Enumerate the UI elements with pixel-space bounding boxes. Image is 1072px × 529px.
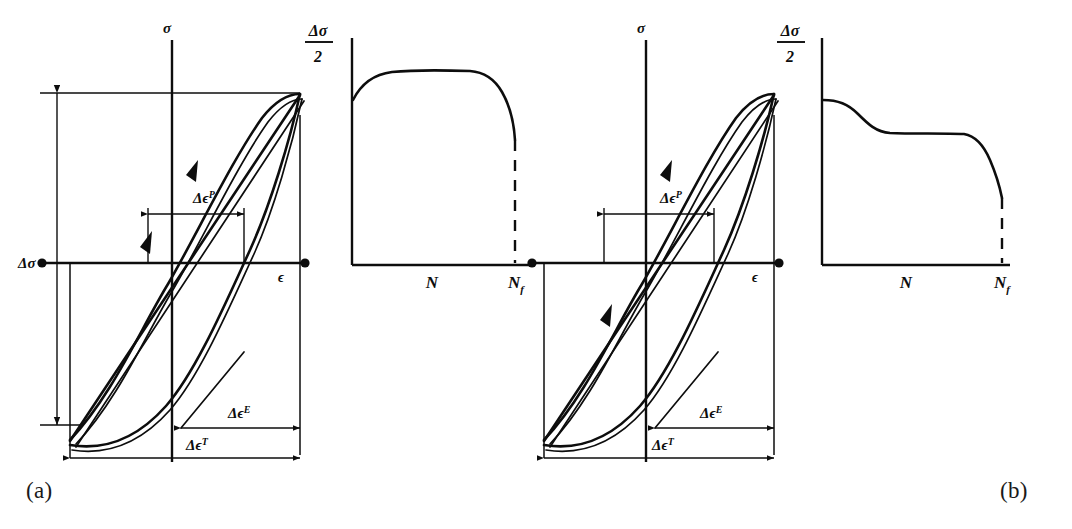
response-y-numerator-a: Δσ [308, 22, 328, 39]
response-y-denominator-a: 2 [313, 48, 322, 65]
response-y-denominator-b: 2 [785, 48, 794, 65]
epsilon-axis-right-dot-b [774, 258, 783, 267]
loop-chord-inner-a [76, 101, 304, 447]
figure-canvas: Δσ [0, 0, 1072, 529]
response-curve-a [353, 70, 515, 140]
loop-lower-branch-inner-b [546, 99, 776, 451]
hysteresis-chart-b: ΔϵP ΔϵE ΔϵT σ ϵ [527, 20, 783, 462]
loop-upper-branch-inner-b [550, 99, 776, 444]
sigma-axis-label-a: σ [163, 20, 172, 36]
response-x-label-b: N [899, 273, 913, 292]
epsilon-axis-label-b: ϵ [752, 270, 759, 285]
delta-sigma-label-a: Δσ [17, 255, 36, 271]
response-chart-a: Δσ 2 N Nf [305, 22, 530, 295]
response-failure-label-a: Nf [507, 273, 525, 295]
response-y-numerator-b: Δσ [780, 22, 800, 39]
panel-a: Δσ [17, 20, 530, 462]
response-x-label-a: N [425, 273, 439, 292]
loop-direction-arrow-lower-b [600, 304, 612, 327]
sigma-axis-label-b: σ [637, 20, 646, 36]
loop-direction-arrow-upper-a [186, 160, 198, 182]
hysteresis-chart-a: Δσ [17, 20, 310, 462]
response-curve-b [823, 100, 1002, 198]
loop-direction-arrow-upper-b [660, 160, 672, 182]
delta-eps-p-label-b: ΔϵP [659, 189, 683, 206]
epsilon-axis-left-dot-b [527, 258, 536, 267]
epsilon-axis-left-dot-a [37, 258, 46, 267]
response-y-axis-label-b: Δσ 2 [777, 22, 805, 65]
epsilon-axis-right-dot-a [300, 258, 309, 267]
panel-b: ΔϵP ΔϵE ΔϵT σ ϵ Δσ [527, 20, 1011, 462]
loop-direction-arrow-lower-a [140, 231, 152, 254]
response-failure-label-b: Nf [993, 273, 1011, 295]
response-y-axis-label-a: Δσ 2 [305, 22, 333, 65]
figure-root: Δσ [0, 0, 1072, 529]
loop-upper-branch-inner-a [76, 99, 302, 444]
loop-lower-branch-inner-a [72, 99, 302, 451]
delta-eps-t-label-b: ΔϵT [651, 436, 675, 453]
response-chart-b: Δσ 2 N Nf [777, 22, 1011, 295]
delta-eps-e-label-a: ΔϵE [227, 404, 251, 421]
epsilon-axis-label-a: ϵ [278, 270, 285, 285]
delta-eps-e-label-b: ΔϵE [699, 404, 723, 421]
delta-eps-t-label-a: ΔϵT [185, 436, 209, 453]
panel-caption-a: (a) [26, 478, 52, 504]
loop-chord-inner-b [550, 101, 778, 447]
panel-caption-b: (b) [1000, 478, 1028, 504]
